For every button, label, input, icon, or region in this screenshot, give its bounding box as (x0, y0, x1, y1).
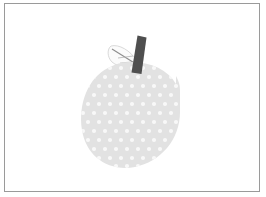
image-canvas (0, 0, 266, 197)
apple-illustration (0, 0, 266, 197)
apple-svg (0, 0, 266, 197)
apple-body-group (81, 62, 180, 168)
apple-body (81, 62, 180, 168)
